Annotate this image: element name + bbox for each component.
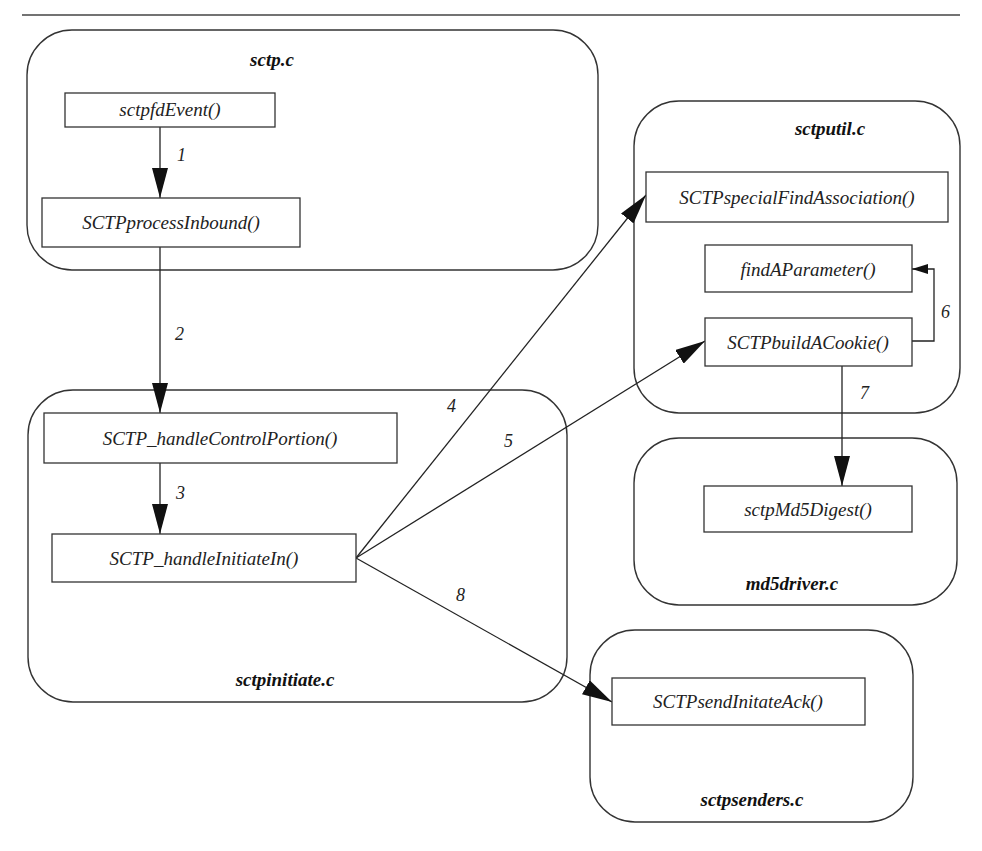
edge-1-label: 1 (177, 145, 186, 165)
edge-5-arrow (356, 341, 705, 558)
call-flow-diagram: sctp.c sctputil.c sctpinitiate.c md5driv… (0, 0, 982, 851)
edge-2-label: 2 (175, 324, 184, 344)
edge-6-label: 6 (941, 302, 950, 322)
func-SCTPspecialFindAssociation: SCTPspecialFindAssociation() (646, 172, 948, 222)
func-SCTP_handleControlPortion-label: SCTP_handleControlPortion() (103, 428, 338, 450)
func-sctpMd5Digest-label: sctpMd5Digest() (744, 499, 872, 521)
module-sctpsenders-label: sctpsenders.c (700, 789, 804, 810)
func-sctpMd5Digest: sctpMd5Digest() (704, 486, 912, 532)
edge-8-label: 8 (456, 585, 465, 605)
func-SCTP_handleInitiateIn-label: SCTP_handleInitiateIn() (110, 548, 299, 570)
edge-4-label: 4 (447, 396, 456, 416)
func-SCTPsendInitateAck: SCTPsendInitateAck() (612, 678, 865, 725)
func-SCTPbuildACookie: SCTPbuildACookie() (705, 318, 912, 366)
edge-3-label: 3 (175, 483, 185, 503)
func-findAParameter-label: findAParameter() (740, 259, 875, 281)
edge-8-arrow (356, 558, 612, 702)
func-SCTP_handleControlPortion: SCTP_handleControlPortion() (44, 413, 397, 463)
module-sctp-label: sctp.c (249, 49, 294, 70)
edge-4-arrow (356, 195, 646, 558)
module-sctputil-label: sctputil.c (794, 118, 866, 139)
module-sctpsenders: sctpsenders.c (590, 630, 913, 822)
func-SCTPbuildACookie-label: SCTPbuildACookie() (727, 332, 888, 354)
func-findAParameter: findAParameter() (705, 245, 912, 292)
func-SCTPprocessInbound-label: SCTPprocessInbound() (82, 212, 260, 234)
module-md5driver-label: md5driver.c (746, 573, 839, 594)
func-SCTPsendInitateAck-label: SCTPsendInitateAck() (653, 691, 823, 713)
func-sctpfdEvent: sctpfdEvent() (65, 93, 275, 127)
edge-5-label: 5 (504, 431, 513, 451)
edge-6-arrow (912, 269, 934, 341)
edge-7-label: 7 (860, 383, 870, 403)
func-SCTPprocessInbound: SCTPprocessInbound() (42, 198, 300, 247)
func-SCTP_handleInitiateIn: SCTP_handleInitiateIn() (52, 534, 356, 582)
func-sctpfdEvent-label: sctpfdEvent() (119, 99, 220, 121)
module-sctpinitiate-label: sctpinitiate.c (235, 669, 335, 690)
func-SCTPspecialFindAssociation-label: SCTPspecialFindAssociation() (679, 187, 914, 209)
